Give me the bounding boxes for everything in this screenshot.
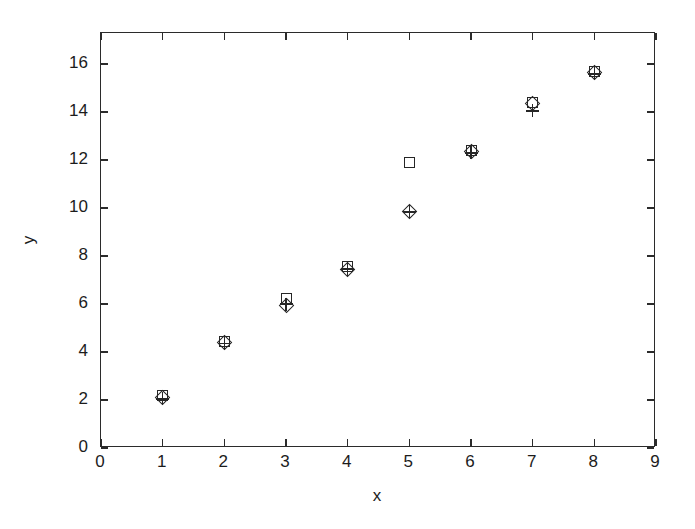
x-tick-label-7: 7: [512, 452, 552, 472]
y-tick-8: [101, 255, 108, 257]
plus-icon-vertical: [347, 263, 349, 276]
diamond-icon: [155, 390, 171, 406]
plus-icon-vertical: [532, 104, 534, 117]
square-icon: [342, 261, 353, 272]
x-tick-2: [224, 439, 226, 446]
diamond-icon: [217, 335, 233, 351]
y-tick-label-10: 10: [48, 197, 88, 217]
square-icon: [219, 336, 230, 347]
y-tick-right-14: [647, 111, 654, 113]
x-tick-label-1: 1: [142, 452, 182, 472]
x-tick-label-4: 4: [327, 452, 367, 472]
plot-area: [100, 32, 655, 447]
x-tick-label-3: 3: [265, 452, 305, 472]
y-tick-label-12: 12: [48, 149, 88, 169]
y-tick-right-12: [647, 159, 654, 161]
plus-icon-horizontal: [341, 268, 354, 270]
plus-icon-horizontal: [280, 303, 293, 305]
x-tick-top-4: [347, 33, 349, 40]
x-tick-6: [470, 439, 472, 446]
diamond-icon: [587, 65, 603, 81]
plus-icon-horizontal: [156, 398, 169, 400]
x-tick-0: [100, 439, 102, 446]
y-axis-title: y: [19, 225, 39, 255]
plus-icon-vertical: [409, 205, 411, 218]
square-icon: [466, 145, 477, 156]
x-tick-label-9: 9: [635, 452, 675, 472]
plus-icon-horizontal: [403, 211, 416, 213]
plus-icon-vertical: [285, 298, 287, 311]
square-icon: [404, 157, 415, 168]
x-tick-top-7: [532, 33, 534, 40]
y-tick-label-14: 14: [48, 101, 88, 121]
y-tick-2: [101, 399, 108, 401]
plus-icon-vertical: [470, 146, 472, 159]
plus-icon-vertical: [594, 67, 596, 80]
chart-figure: y x 0246810121416 0123456789: [0, 0, 695, 529]
plus-icon-horizontal: [588, 73, 601, 75]
x-tick-top-3: [285, 33, 287, 40]
y-tick-right-8: [647, 255, 654, 257]
x-tick-4: [347, 439, 349, 446]
x-tick-top-2: [224, 33, 226, 40]
x-tick-8: [594, 439, 596, 446]
x-axis-title: x: [327, 486, 427, 506]
plus-icon-vertical: [224, 337, 226, 350]
y-tick-right-0: [647, 447, 654, 449]
x-tick-top-5: [409, 33, 411, 40]
y-tick-label-4: 4: [48, 341, 88, 361]
x-tick-3: [285, 439, 287, 446]
y-tick-0: [101, 447, 108, 449]
diamond-icon: [463, 144, 479, 160]
plus-icon-horizontal: [218, 343, 231, 345]
y-tick-label-2: 2: [48, 389, 88, 409]
x-tick-top-6: [470, 33, 472, 40]
y-tick-right-10: [647, 207, 654, 209]
square-icon: [527, 97, 538, 108]
x-tick-5: [409, 439, 411, 446]
plus-icon-horizontal: [526, 110, 539, 112]
x-tick-7: [532, 439, 534, 446]
x-tick-top-8: [594, 33, 596, 40]
square-icon: [157, 390, 168, 401]
x-tick-top-0: [100, 33, 102, 40]
plus-icon-horizontal: [465, 152, 478, 154]
y-tick-right-4: [647, 351, 654, 353]
y-tick-label-8: 8: [48, 245, 88, 265]
diamond-icon: [525, 96, 541, 112]
diamond-icon: [402, 204, 418, 220]
x-tick-label-5: 5: [388, 452, 428, 472]
y-tick-right-16: [647, 63, 654, 65]
plus-icon-vertical: [162, 392, 164, 405]
square-icon: [281, 293, 292, 304]
y-tick-label-6: 6: [48, 293, 88, 313]
y-tick-12: [101, 159, 108, 161]
y-tick-6: [101, 303, 108, 305]
y-tick-14: [101, 111, 108, 113]
x-tick-label-6: 6: [450, 452, 490, 472]
x-tick-9: [655, 439, 657, 446]
x-tick-1: [162, 439, 164, 446]
y-tick-right-2: [647, 399, 654, 401]
diamond-icon: [340, 262, 356, 278]
y-tick-right-6: [647, 303, 654, 305]
x-tick-label-0: 0: [80, 452, 120, 472]
y-tick-4: [101, 351, 108, 353]
y-tick-10: [101, 207, 108, 209]
diamond-icon: [278, 297, 294, 313]
x-tick-label-2: 2: [203, 452, 243, 472]
x-tick-top-1: [162, 33, 164, 40]
y-tick-label-16: 16: [48, 53, 88, 73]
x-tick-label-8: 8: [573, 452, 613, 472]
y-tick-16: [101, 63, 108, 65]
x-tick-top-9: [655, 33, 657, 40]
square-icon: [589, 66, 600, 77]
